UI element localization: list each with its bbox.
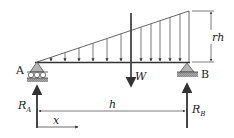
reaction-a-label: RA (17, 99, 31, 114)
span-label: h (109, 98, 116, 111)
resultant-label: W (135, 70, 148, 83)
support-a-label: A (15, 64, 25, 77)
support-b-label: B (201, 68, 209, 81)
beam-diagram: W rh A B RA RB h x (0, 0, 234, 138)
load-height-dimension (192, 11, 214, 62)
x-label: x (53, 114, 60, 127)
support-b (177, 63, 198, 77)
reaction-b-label: RB (191, 103, 205, 118)
load-height-label: rh (212, 31, 224, 44)
distributed-load (37, 11, 189, 62)
support-a (27, 62, 48, 82)
